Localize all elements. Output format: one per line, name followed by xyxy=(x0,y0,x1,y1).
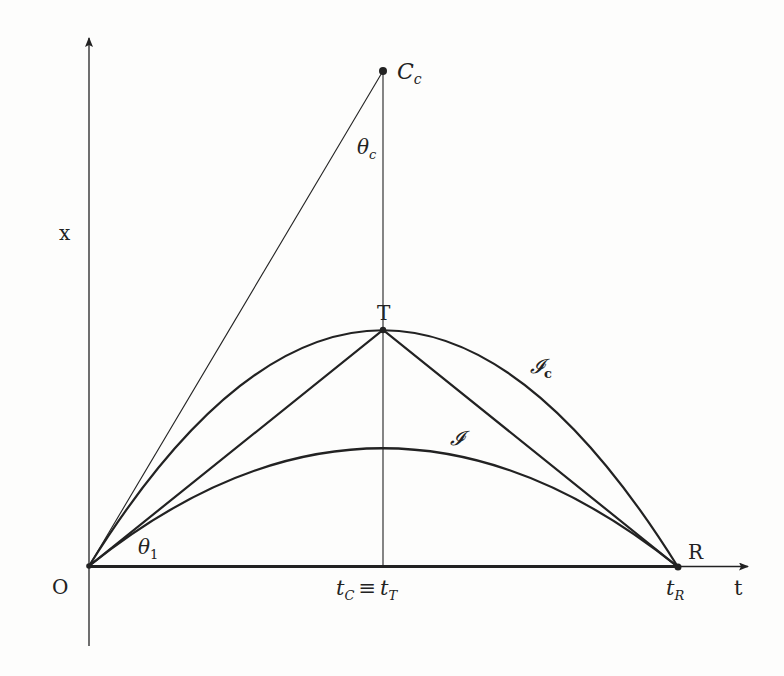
label-equiv: ≡ xyxy=(358,576,376,600)
diagram-svg: Cc θc x T 𝓘c 𝓘 θ1 O R tC≡tT tR xyxy=(0,0,784,676)
label-theta-1-main: θ xyxy=(138,535,150,559)
label-theta-c: θc xyxy=(357,135,377,162)
label-tR-sub: R xyxy=(673,588,684,603)
label-tR: tR xyxy=(666,576,684,603)
label-T: T xyxy=(377,301,391,325)
label-Cc-main: C xyxy=(397,59,414,84)
point-T xyxy=(380,327,386,333)
label-Cc: Cc xyxy=(397,59,422,87)
label-theta-c-sub: c xyxy=(369,147,377,162)
label-Cc-sub: c xyxy=(414,71,422,87)
point-O xyxy=(86,563,92,569)
label-curve-Ic-sub: c xyxy=(544,366,552,381)
label-t-axis: t xyxy=(734,576,743,600)
line-O-Cc xyxy=(89,71,383,566)
label-tC-equiv-tT: tC≡tT xyxy=(336,576,398,603)
label-tT-sub: T xyxy=(388,588,398,603)
label-theta-1-sub: 1 xyxy=(150,547,158,562)
label-x-axis: x xyxy=(59,221,71,245)
label-O: O xyxy=(52,575,68,599)
label-tC-sub: C xyxy=(344,588,354,603)
label-theta-c-main: θ xyxy=(357,135,369,159)
label-theta-1: θ1 xyxy=(138,535,158,562)
label-curve-I: 𝓘 xyxy=(450,426,470,450)
label-curve-Ic: 𝓘c xyxy=(530,354,552,381)
spacetime-diagram: Cc θc x T 𝓘c 𝓘 θ1 O R tC≡tT tR xyxy=(0,0,784,676)
point-Cc xyxy=(379,67,387,75)
point-R xyxy=(675,564,682,571)
label-R: R xyxy=(688,540,704,564)
